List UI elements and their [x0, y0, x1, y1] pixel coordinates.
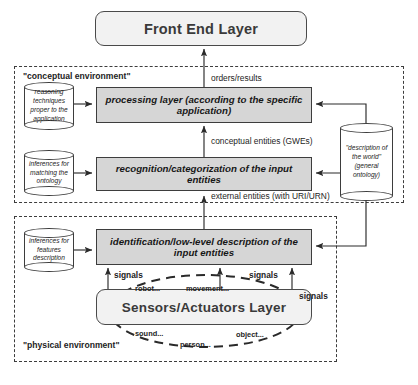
identification-layer-label: identification/low-level description of …	[103, 236, 305, 259]
datastore-inferences-ontology-label: inferences for matching the ontology	[24, 150, 74, 196]
edge-label-signals-right: signals	[299, 291, 328, 301]
edge-label-orders-results: orders/results	[211, 73, 262, 83]
sensors-actuators-layer-box[interactable]: Sensors/Actuators Layer	[96, 289, 312, 325]
world-item-robot: robot...	[135, 284, 160, 293]
processing-layer-box[interactable]: processing layer (according to the speci…	[96, 87, 312, 123]
sensors-actuators-layer-label: Sensors/Actuators Layer	[122, 300, 286, 315]
recognition-layer-box[interactable]: recognition/categorization of the input …	[96, 157, 312, 191]
edge-label-signals-middle: signals	[249, 270, 278, 280]
world-item-object: object...	[236, 330, 264, 339]
identification-layer-box[interactable]: identification/low-level description of …	[96, 229, 312, 265]
datastore-inferences-ontology[interactable]: inferences for matching the ontology	[24, 150, 74, 196]
datastore-reasoning-techniques-label: reasoning techniques proper to the appli…	[24, 82, 74, 130]
edge-label-conceptual-entities: conceptual entities (GWEs)	[211, 136, 312, 146]
front-end-layer-box[interactable]: Front End Layer	[95, 11, 307, 46]
edge-label-signals-left: signals	[114, 270, 143, 280]
datastore-description-of-the-world-label: "description of the world" (general onto…	[340, 123, 393, 201]
edge-label-external-entities: external entities (with URI/URN)	[211, 191, 330, 201]
front-end-layer-label: Front End Layer	[144, 21, 258, 37]
processing-layer-label: processing layer (according to the speci…	[103, 94, 305, 117]
datastore-inferences-features-label: inferences for features description	[24, 228, 74, 272]
datastore-inferences-features[interactable]: inferences for features description	[24, 228, 74, 272]
world-item-sound: sound...	[135, 329, 163, 338]
recognition-layer-label: recognition/categorization of the input …	[103, 163, 305, 186]
datastore-description-of-the-world[interactable]: "description of the world" (general onto…	[340, 123, 393, 201]
diagram-canvas: "conceptual environment" "physical envir…	[0, 0, 418, 385]
datastore-reasoning-techniques[interactable]: reasoning techniques proper to the appli…	[24, 82, 74, 130]
world-item-person: person...	[180, 340, 211, 349]
world-item-movement: movement...	[186, 284, 229, 293]
